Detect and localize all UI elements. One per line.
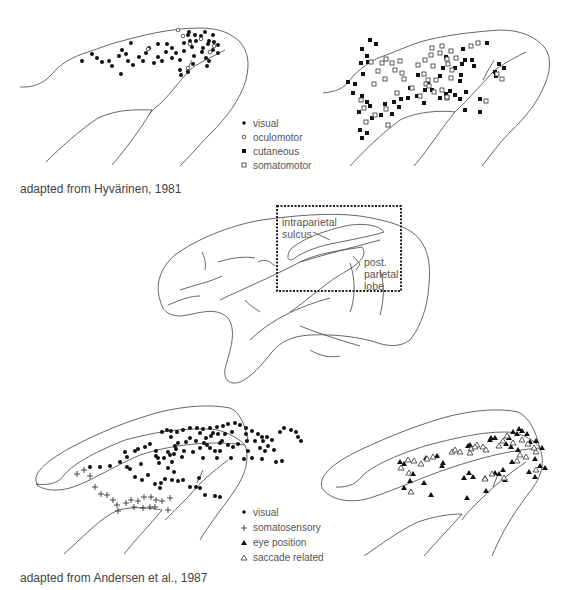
visual-marker (218, 495, 222, 499)
cutaneous-marker (478, 97, 482, 101)
gyrus-line-2 (124, 510, 162, 554)
somatomotor-marker (383, 77, 387, 81)
lobe-label-line3: lobe (364, 280, 384, 292)
visual-marker (174, 51, 178, 55)
legend-label: visual (253, 118, 279, 129)
somatomotor-marker (410, 86, 414, 90)
visual-marker (88, 465, 92, 469)
somatosensory-marker (159, 498, 165, 504)
visual-marker (263, 449, 267, 453)
eye-position-marker (483, 488, 489, 493)
cutaneous-marker (359, 61, 363, 65)
eye-position-marker (532, 456, 538, 461)
somatomotor-marker (393, 68, 397, 72)
saccade-related-marker (418, 461, 424, 466)
visual-marker (160, 430, 164, 434)
visual-marker (205, 443, 209, 447)
visual-marker (181, 478, 185, 482)
somatomotor-marker (372, 82, 376, 86)
oculomotor-marker (186, 66, 190, 70)
visual-marker (226, 422, 230, 426)
cutaneous-marker (461, 47, 465, 51)
cutaneous-marker (390, 112, 394, 116)
bottom-caption: adapted from Andersen et al., 1987 (20, 571, 208, 585)
cutaneous-marker (406, 96, 410, 100)
somatomotor-marker (422, 72, 426, 76)
visual-marker (180, 455, 184, 459)
visual-marker (182, 41, 186, 45)
lobe-label-line2: parietal (364, 268, 398, 280)
gyrus-line-2 (424, 514, 462, 556)
somatomotor-marker (423, 58, 427, 62)
cutaneous-marker (438, 74, 442, 78)
lateral-sulcus (168, 276, 222, 305)
saccade-related-marker (405, 457, 411, 462)
middle-lateral-brain: intraparietal sulcus post. parietal lobe (158, 206, 429, 383)
cutaneous-marker (368, 38, 372, 42)
cutaneous-marker (357, 110, 361, 114)
gyrus-line-1 (46, 110, 152, 162)
visual-marker (163, 477, 167, 481)
cutaneous-marker (392, 100, 396, 104)
open-triangle-icon (241, 555, 247, 560)
cutaneous-marker (374, 42, 378, 46)
somatosensory-marker (140, 505, 146, 511)
top-legend: visual oculomotor cutaneous somatomotor (242, 118, 312, 171)
eye-position-marker (461, 475, 467, 480)
visual-marker (162, 456, 166, 460)
somatomotor-marker (416, 63, 420, 67)
visual-marker (212, 40, 216, 44)
temporal-sulcus (250, 298, 360, 357)
visual-marker (246, 449, 250, 453)
upper-fold (36, 429, 245, 485)
somatomotor-marker (398, 59, 402, 63)
visual-marker (139, 462, 143, 466)
visual-marker (194, 439, 198, 443)
somatomotor-marker (454, 56, 458, 60)
cutaneous-marker (346, 80, 350, 84)
bottom-right-markers (397, 426, 548, 500)
somatosensory-marker (92, 484, 98, 490)
somatomotor-marker (369, 60, 373, 64)
visual-marker (188, 436, 192, 440)
cutaneous-marker (478, 110, 482, 114)
somatomotor-marker (359, 98, 363, 102)
eye-position-marker (515, 447, 521, 452)
somatomotor-marker (384, 57, 388, 61)
upper-fold (336, 432, 540, 487)
saccade-related-marker (517, 452, 523, 457)
sulcus-label-line1: intraparietal (282, 216, 337, 228)
visual-marker (223, 432, 227, 436)
visual-marker (231, 445, 235, 449)
top-right-brain-map (323, 30, 550, 166)
visual-marker (193, 33, 197, 37)
cutaneous-marker (485, 41, 489, 45)
visual-marker (229, 456, 233, 460)
gyrus-line-1 (64, 508, 162, 554)
visual-marker (226, 443, 230, 447)
somatosensory-marker (135, 498, 141, 504)
cutaneous-marker (368, 104, 372, 108)
somatomotor-marker (440, 88, 444, 92)
legend-label: somatosensory (253, 522, 321, 533)
visual-marker (124, 52, 128, 56)
visual-marker (270, 438, 274, 442)
visual-marker (170, 46, 174, 50)
visual-marker (215, 425, 219, 429)
visual-marker (182, 49, 186, 53)
brain-outline-outer (36, 406, 248, 485)
visual-marker (169, 429, 173, 433)
saccade-related-marker (482, 476, 488, 481)
somatomotor-marker (376, 69, 380, 73)
somatosensory-marker (148, 494, 154, 500)
somatomotor-marker (484, 99, 488, 103)
visual-marker (153, 482, 157, 486)
somatomotor-marker (476, 41, 480, 45)
bottom-legend: visual somatosensory eye position saccad… (241, 507, 324, 563)
visual-marker (266, 444, 270, 448)
cutaneous-marker (397, 105, 401, 109)
cutaneous-marker (361, 72, 365, 76)
visual-marker (296, 435, 300, 439)
visual-marker (274, 460, 278, 464)
visual-marker (207, 39, 211, 43)
